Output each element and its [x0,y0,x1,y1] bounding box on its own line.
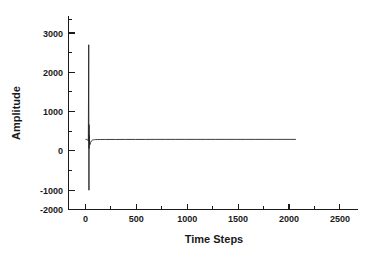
y-axis-major-ticks [69,33,75,210]
x-tick-label-1000: 1000 [177,214,197,224]
x-tick-label-1500: 1500 [228,214,248,224]
amplitude-vs-time-chart: 3000 2000 1000 0 -1000 -2000 0 500 1000 … [0,0,376,272]
chart-figure: 3000 2000 1000 0 -1000 -2000 0 500 1000 … [0,0,376,272]
y-tick-label-3000: 3000 [43,29,63,39]
y-tick-label-neg2000: -2000 [40,205,63,215]
y-tick-label-1000: 1000 [43,107,63,117]
x-tick-label-2500: 2500 [330,214,350,224]
signal-line [86,45,296,190]
x-tick-label-0: 0 [83,214,88,224]
y-tick-label-neg1000: -1000 [40,186,63,196]
y-tick-label-0: 0 [58,146,63,156]
x-axis-title: Time Steps [185,233,244,245]
x-tick-label-500: 500 [129,214,144,224]
x-tick-label-2000: 2000 [279,214,299,224]
y-tick-label-2000: 2000 [43,68,63,78]
y-axis-title: Amplitude [10,86,22,140]
